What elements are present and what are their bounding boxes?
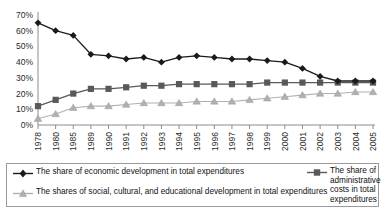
x-axis-tick-label: 1997 xyxy=(227,132,237,151)
legend-item-social-cultural-educational[interactable]: The shares of social, cultural, and educ… xyxy=(13,187,301,199)
plot-area: 0%10%20%30%40%50%60%70% 1978198019851989… xyxy=(0,0,387,160)
x-axis-tick-label: 1996 xyxy=(210,132,220,151)
series-administrative-costs xyxy=(35,79,376,109)
data-point xyxy=(176,54,183,61)
x-axis-tick-label: 2005 xyxy=(368,132,378,151)
data-point xyxy=(299,79,305,85)
series-economic-development xyxy=(35,19,377,84)
data-point xyxy=(105,52,112,59)
data-point xyxy=(123,56,130,63)
x-axis-tick-label: 1994 xyxy=(174,132,184,151)
x-axis-tick-label: 2000 xyxy=(280,132,290,151)
data-point xyxy=(105,86,111,92)
legend-label-administrative-costs: The share of administrative costs in tot… xyxy=(330,166,381,204)
x-axis-tick-label: 2004 xyxy=(351,132,361,151)
data-point xyxy=(211,81,217,87)
legend-item-economic-development[interactable]: The share of economic development in tot… xyxy=(13,167,301,179)
x-axis-tick-label: 1992 xyxy=(139,132,149,151)
x-axis-tick-label: 1985 xyxy=(68,132,78,151)
data-point xyxy=(229,56,236,63)
x-axis-tick-label: 1990 xyxy=(104,132,114,151)
data-point xyxy=(211,54,218,61)
data-point xyxy=(88,86,94,92)
legend-item-administrative-costs[interactable]: The share of administrative costs in tot… xyxy=(307,166,379,204)
legend-right-column: The share of administrative costs in tot… xyxy=(307,166,379,209)
line-chart-svg: 0%10%20%30%40%50%60%70% 1978198019851989… xyxy=(0,0,387,160)
data-point xyxy=(52,27,59,34)
x-axis-tick-labels: 1978198019851989199019911992199319941995… xyxy=(33,132,378,151)
x-axis-tick-label: 1995 xyxy=(192,132,202,151)
data-point xyxy=(317,79,323,85)
chart-figure: 0%10%20%30%40%50%60%70% 1978198019851989… xyxy=(0,0,387,212)
square-marker-icon xyxy=(307,167,327,178)
data-point xyxy=(246,56,253,63)
data-point xyxy=(35,19,42,26)
data-point xyxy=(53,97,59,103)
legend-left-column: The share of economic development in tot… xyxy=(13,167,301,204)
y-axis-tick-label: 20% xyxy=(16,89,33,99)
data-point xyxy=(299,65,306,72)
x-axis-tick-label: 1978 xyxy=(33,132,43,151)
legend-label-economic-development: The share of economic development in tot… xyxy=(36,167,244,177)
data-point xyxy=(317,73,324,80)
data-point xyxy=(176,81,182,87)
x-axis xyxy=(38,125,375,129)
data-point xyxy=(158,83,164,89)
data-point xyxy=(70,90,76,96)
legend-label-social-cultural-educational: The shares of social, cultural, and educ… xyxy=(36,187,327,197)
series-social-cultural-educational xyxy=(34,88,377,121)
data-point xyxy=(141,83,147,89)
y-axis-tick-label: 40% xyxy=(16,57,33,67)
data-point xyxy=(123,84,129,90)
data-point xyxy=(194,81,200,87)
x-axis-tick-label: 1993 xyxy=(157,132,167,151)
triangle-marker-icon xyxy=(13,188,33,199)
data-series-group xyxy=(34,19,377,121)
y-axis-tick-label: 50% xyxy=(16,41,33,51)
x-axis-tick-label: 1991 xyxy=(121,132,131,151)
data-point xyxy=(264,79,270,85)
y-axis-tick-label: 0% xyxy=(21,120,34,130)
x-axis-tick-label: 1999 xyxy=(262,132,272,151)
x-axis-tick-label: 1980 xyxy=(51,132,61,151)
diamond-marker-icon xyxy=(13,168,33,179)
y-axis-tick-label: 60% xyxy=(16,26,33,36)
y-axis: 0%10%20%30%40%50%60%70% xyxy=(16,10,38,130)
x-axis-tick-label: 2002 xyxy=(315,132,325,151)
data-point xyxy=(35,103,41,109)
data-point xyxy=(193,52,200,59)
data-point xyxy=(140,54,147,61)
chart-legend: The share of economic development in tot… xyxy=(6,163,379,207)
y-axis-tick-label: 10% xyxy=(16,104,33,114)
x-axis-tick-label: 1998 xyxy=(245,132,255,151)
x-axis-tick-label: 2001 xyxy=(298,132,308,151)
y-axis-tick-label: 70% xyxy=(16,10,33,20)
y-axis-tick-label: 30% xyxy=(16,73,33,83)
data-point xyxy=(281,59,288,66)
data-point xyxy=(264,57,271,64)
data-point xyxy=(158,59,165,66)
x-axis-tick-label: 1989 xyxy=(86,132,96,151)
x-axis-tick-label: 2003 xyxy=(333,132,343,151)
data-point xyxy=(246,81,252,87)
data-point xyxy=(282,79,288,85)
data-point xyxy=(229,81,235,87)
